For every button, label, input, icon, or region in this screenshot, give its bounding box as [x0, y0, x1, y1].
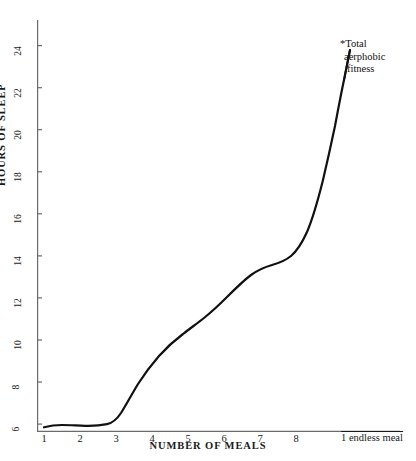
y-tick-label-20: 20 [13, 130, 23, 140]
y-tick-label-24: 24 [13, 46, 23, 56]
chart-title-clipped: NUMBER OF MEALS VERSUS HOURS OF SLEEP [0, 0, 416, 2]
annotation-line-1: *Total [340, 38, 416, 51]
data-line-hours-of-sleep [44, 50, 350, 427]
y-tick-label-10: 10 [13, 340, 23, 350]
annotation-word-total: Total [345, 38, 366, 49]
plot-area [37, 20, 400, 432]
y-tick-label-12: 12 [13, 298, 23, 308]
y-tick-label-8: 8 [11, 385, 21, 390]
y-axis-label: HOURS OF SLEEP [0, 66, 7, 186]
plot-svg [37, 20, 400, 432]
y-tick-label-6: 6 [11, 427, 21, 432]
y-tick-label-22: 22 [13, 88, 23, 98]
annotation-line-2: aerphobic [340, 51, 416, 64]
y-tick-label-14: 14 [13, 256, 23, 266]
chart-figure: NUMBER OF MEALS VERSUS HOURS OF SLEEP [0, 0, 416, 461]
chart-annotation: *Total aerphobic fitness [340, 38, 416, 76]
y-tick-label-18: 18 [13, 172, 23, 182]
y-axis-label-text: HOURS OF SLEEP [0, 66, 7, 186]
y-tick-label-16: 16 [13, 214, 23, 224]
x-axis-label: NUMBER OF MEALS [0, 440, 416, 451]
annotation-line-3: fitness [340, 63, 416, 76]
